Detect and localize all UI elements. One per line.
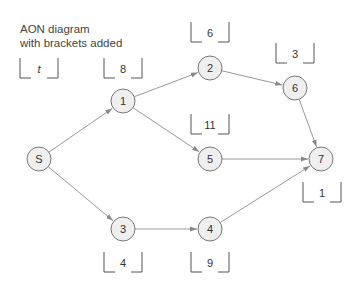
duration-bracket: t (20, 58, 58, 78)
node-4: 4 (198, 217, 222, 241)
node-label: 2 (207, 62, 213, 74)
edge-6-to-7 (299, 99, 316, 147)
node-label: S (35, 153, 42, 165)
edge-1-to-5 (133, 108, 199, 152)
bracket-value: 11 (204, 119, 215, 131)
node-label: 7 (318, 153, 324, 165)
duration-bracket: 1 (303, 182, 341, 202)
edge-S-to-3 (48, 167, 113, 221)
node-1: 1 (111, 89, 135, 113)
bracket-value: 9 (207, 257, 213, 269)
node-label: 6 (292, 82, 298, 94)
duration-bracket: 3 (276, 43, 314, 63)
edge-4-to-7 (220, 166, 310, 223)
duration-bracket: 4 (104, 252, 142, 272)
edges-layer (48, 71, 316, 229)
node-3: 3 (111, 217, 135, 241)
edge-1-to-2 (134, 73, 198, 97)
bracket-value: 8 (120, 63, 126, 75)
duration-bracket: 9 (191, 252, 229, 272)
brackets-layer: t86311149 (20, 22, 341, 272)
node-5: 5 (198, 147, 222, 171)
duration-bracket: 6 (191, 22, 229, 42)
node-2: 2 (198, 56, 222, 80)
edge-S-to-1 (49, 108, 112, 152)
node-label: 5 (207, 153, 213, 165)
duration-bracket: 11 (191, 114, 229, 134)
nodes-layer: S1265734 (27, 56, 333, 241)
edge-2-to-6 (222, 71, 283, 85)
node-label: 1 (120, 95, 126, 107)
bracket-value: t (37, 63, 41, 75)
bracket-value: 4 (120, 257, 126, 269)
bracket-value: 6 (207, 27, 213, 39)
node-S: S (27, 147, 51, 171)
node-6: 6 (283, 76, 307, 100)
node-label: 3 (120, 223, 126, 235)
bracket-value: 1 (319, 187, 325, 199)
bracket-value: 3 (292, 48, 298, 60)
node-7: 7 (309, 147, 333, 171)
aon-network-diagram: S1265734 t86311149 (0, 0, 358, 292)
node-label: 4 (207, 223, 213, 235)
duration-bracket: 8 (104, 58, 142, 78)
